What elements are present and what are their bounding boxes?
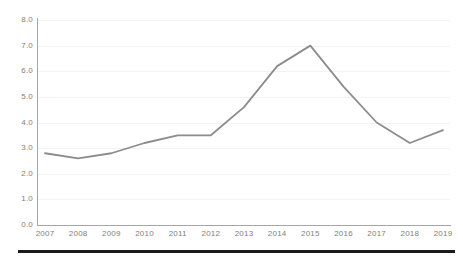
y-tick-label: 2.0 bbox=[3, 170, 33, 178]
y-tick-label: 7.0 bbox=[3, 42, 33, 50]
y-axis-tick-labels: 0.01.02.03.04.05.06.07.08.0 bbox=[0, 0, 33, 259]
gridline bbox=[38, 97, 450, 98]
y-tick-label: 5.0 bbox=[3, 93, 33, 101]
bottom-rule bbox=[18, 250, 455, 253]
x-tick-label: 2014 bbox=[268, 229, 287, 238]
x-tick-label: 2010 bbox=[135, 229, 154, 238]
gridlines bbox=[38, 20, 450, 225]
x-tick-label: 2012 bbox=[202, 229, 221, 238]
gridline bbox=[38, 174, 450, 175]
x-tick-label: 2013 bbox=[235, 229, 254, 238]
gridline bbox=[38, 71, 450, 72]
x-tick-label: 2009 bbox=[102, 229, 121, 238]
x-tick-label: 2016 bbox=[334, 229, 353, 238]
x-tick-label: 2008 bbox=[69, 229, 88, 238]
x-tick-label: 2017 bbox=[367, 229, 386, 238]
gridline bbox=[38, 123, 450, 124]
x-tick-label: 2019 bbox=[434, 229, 453, 238]
x-tick-label: 2018 bbox=[401, 229, 420, 238]
gridline bbox=[38, 148, 450, 149]
y-tick-label: 3.0 bbox=[3, 144, 33, 152]
gridline bbox=[38, 199, 450, 200]
y-tick-label: 8.0 bbox=[3, 16, 33, 24]
y-tick-label: 1.0 bbox=[3, 195, 33, 203]
x-tick-label: 2011 bbox=[169, 229, 187, 238]
gridline bbox=[38, 46, 450, 47]
y-tick-label: 6.0 bbox=[3, 67, 33, 75]
y-tick-label: 0.0 bbox=[3, 221, 33, 229]
x-axis-tick-labels: 2007200820092010201120122013201420152016… bbox=[38, 229, 450, 243]
y-tick-label: 4.0 bbox=[3, 119, 33, 127]
x-axis-line bbox=[37, 225, 451, 226]
x-tick-label: 2015 bbox=[301, 229, 320, 238]
gridline bbox=[38, 20, 450, 21]
line-chart: 0.01.02.03.04.05.06.07.08.0 200720082009… bbox=[0, 0, 463, 259]
x-tick-label: 2007 bbox=[36, 229, 55, 238]
